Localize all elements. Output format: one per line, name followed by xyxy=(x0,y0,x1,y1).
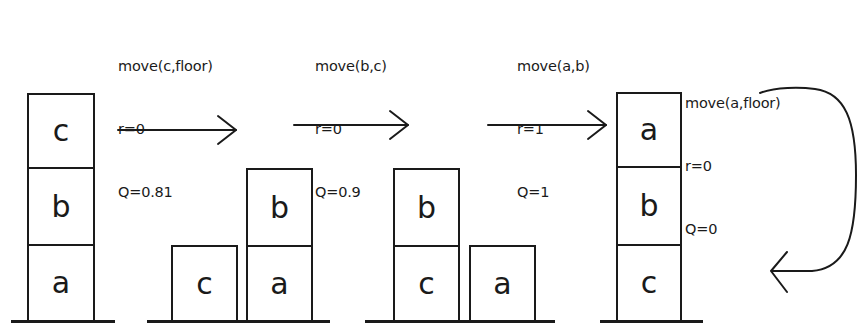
arrow-right-icon xyxy=(488,111,606,139)
arrows-layer xyxy=(0,0,867,334)
arrow-right-icon xyxy=(294,111,408,139)
arrow-right-icon xyxy=(118,116,236,144)
loop-arrow-icon xyxy=(760,88,856,292)
